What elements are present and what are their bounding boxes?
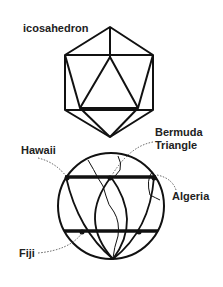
bermuda-label-line2: Triangle xyxy=(155,139,197,151)
node xyxy=(65,176,70,181)
ico-edge xyxy=(65,55,80,108)
node xyxy=(80,230,85,235)
algeria-label: Algeria xyxy=(172,190,209,202)
fiji-label: Fiji xyxy=(19,247,35,259)
continent-americas xyxy=(88,160,119,258)
ico-edge xyxy=(138,55,153,108)
node xyxy=(152,176,157,181)
icosahedron-label: icosahedron xyxy=(23,22,88,34)
bermuda-label-line1: Bermuda xyxy=(155,126,203,138)
globe-drawing xyxy=(58,153,164,259)
icosahedron-drawing xyxy=(65,27,153,137)
hawaii-label: Hawaii xyxy=(21,144,56,156)
node xyxy=(108,176,113,181)
globe-meridian xyxy=(111,177,127,259)
globe-meridian xyxy=(66,177,113,259)
leader-fiji xyxy=(38,233,82,253)
ico-inner-triangle xyxy=(80,57,138,108)
leader-hawaii xyxy=(38,158,66,176)
node xyxy=(137,230,142,235)
